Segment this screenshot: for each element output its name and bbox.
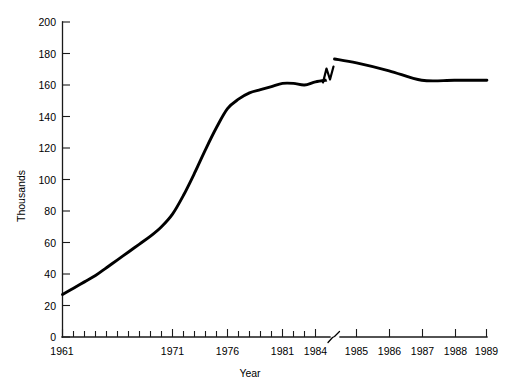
line-chart: Thousands 0 20 4 [0,0,508,392]
y-tick-label: 120 [38,142,56,154]
data-line-left-segment [63,80,328,295]
y-tick-label: 140 [38,111,56,123]
x-tick-label-1987: 1987 [411,345,435,357]
x-tick-label-1988: 1988 [444,345,468,357]
chart-container: Thousands 0 20 4 [0,0,508,392]
x-tick-label-1986: 1986 [378,345,402,357]
y-tick-label: 60 [44,237,56,249]
y-tick-label: 160 [38,79,56,91]
y-tick-label: 40 [44,268,56,280]
y-tick-labels: 0 20 40 60 80 100 120 140 160 180 200 [38,16,56,343]
x-tick-labels: 1961 1971 1976 1981 1984 1985 1986 1987 … [50,345,498,357]
y-tick-label: 0 [50,331,56,343]
y-tick-label: 20 [44,300,56,312]
y-tick-label: 80 [44,205,56,217]
x-tick-label-1981: 1981 [271,345,295,357]
x-tick-marks [63,329,487,337]
x-tick-label-1961: 1961 [50,345,74,357]
x-tick-label-1989: 1989 [475,345,499,357]
x-tick-label-1976: 1976 [216,345,240,357]
y-tick-label: 200 [38,16,56,28]
y-tick-label: 100 [38,174,56,186]
x-axis-title: Year [239,367,261,379]
y-tick-label: 180 [38,48,56,60]
x-tick-label-1984: 1984 [304,345,328,357]
data-line-right-segment [335,59,487,81]
y-axis-title: Thousands [15,170,27,222]
x-tick-label-1985: 1985 [345,345,369,357]
data-line-break-icon [322,66,336,84]
x-tick-label-1971: 1971 [161,345,185,357]
